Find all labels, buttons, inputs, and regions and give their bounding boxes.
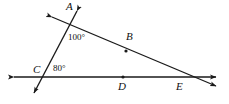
geometry-figure: A B C D E 100° 80° bbox=[0, 0, 229, 104]
line-ABE bbox=[52, 17, 216, 86]
transversal-line-AC bbox=[34, 11, 77, 93]
point-label-E: E bbox=[176, 81, 183, 92]
angle-label-100: 100° bbox=[68, 33, 85, 42]
point-label-C: C bbox=[33, 64, 40, 75]
point-label-D: D bbox=[118, 81, 126, 92]
point-label-B: B bbox=[126, 31, 133, 42]
point-dot-B bbox=[124, 49, 127, 52]
angle-label-80: 80° bbox=[53, 64, 66, 73]
point-dot-D bbox=[121, 75, 124, 78]
point-label-A: A bbox=[66, 1, 73, 12]
geometry-canvas bbox=[0, 0, 229, 104]
